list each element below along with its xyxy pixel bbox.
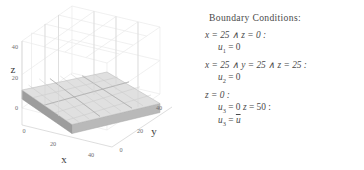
boundary-condition-block-2: x = 25 ∧ y = 25 ∧ z = 25 : u2 = 0 [205,60,364,84]
condition-3-value-b: u3 = u [218,115,364,127]
figure-root: 40 20 0 z 0 20 40 x 40 20 0 y Boundary C… [0,0,364,170]
boundary-condition-block-3: z = 0 : u3 = 0 z = 50 : u3 = u [205,90,364,127]
condition-2-text: x = 25 ∧ y = 25 ∧ z = 25 : [205,60,307,70]
x-tick-40: 40 [88,151,94,158]
z-tick-20: 20 [12,74,18,81]
condition-1-expression: x = 25 ∧ z = 0 : [205,30,364,41]
z-axis-ticks: 40 20 0 [12,43,18,111]
three-d-plot: 40 20 0 z 0 20 40 x 40 20 0 y [0,0,182,170]
z-tick-0: 0 [15,104,18,111]
condition-3-value-a: u3 = 0 z = 50 : [218,102,364,114]
condition-1-text: x = 25 ∧ z = 0 : [205,30,266,40]
boundary-conditions-panel: Boundary Conditions: x = 25 ∧ z = 0 : u1… [205,12,364,133]
boundary-conditions-title: Boundary Conditions: [209,12,364,23]
boundary-condition-block-1: x = 25 ∧ z = 0 : u1 = 0 [205,30,364,54]
x-tick-20: 20 [50,140,56,147]
y-tick-40: 40 [156,104,162,111]
y-tick-0: 0 [119,146,122,153]
condition-3-expression: z = 0 : [205,90,364,101]
x-axis-label: x [61,153,67,165]
plot-canvas: 40 20 0 z 0 20 40 x 40 20 0 y [0,0,182,170]
condition-2-expression: x = 25 ∧ y = 25 ∧ z = 25 : [205,60,364,71]
x-tick-0: 0 [22,127,25,134]
z-axis-label: z [11,63,16,75]
condition-1-value: u1 = 0 [218,42,364,54]
y-axis-label: y [151,125,157,137]
condition-2-value: u2 = 0 [218,72,364,84]
condition-3-text: z = 0 : [205,90,230,100]
z-tick-40: 40 [12,43,18,50]
y-tick-20: 20 [137,127,143,134]
x-axis-ticks: 0 20 40 [22,127,94,158]
